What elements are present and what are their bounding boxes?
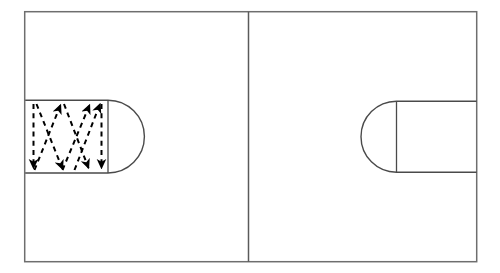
segment-down-diag-1	[37, 104, 63, 169]
segment-up-diag-1	[35, 105, 61, 170]
figure-root	[0, 0, 500, 273]
segment-up-diag-2	[63, 105, 90, 170]
capsule-region-outline	[361, 101, 477, 172]
capsule-region-outline	[25, 100, 144, 173]
right-panel	[361, 101, 477, 172]
left-panel	[25, 100, 144, 173]
zigzag-scan-path	[34, 104, 102, 170]
diagram-canvas	[0, 0, 500, 273]
segment-up-diag-3	[75, 104, 101, 170]
outer-border	[25, 12, 477, 262]
